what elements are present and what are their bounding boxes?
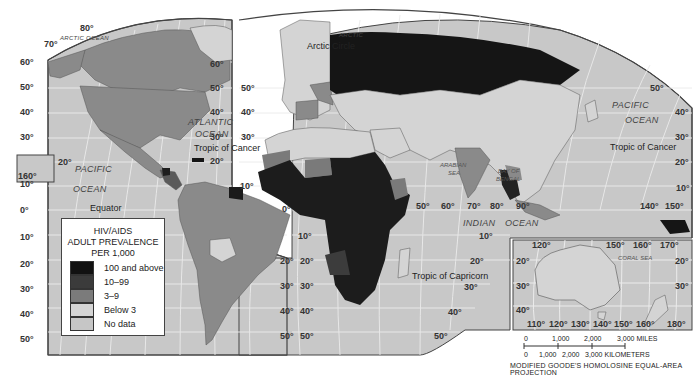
left-lat-label: 20° [20,260,34,269]
legend-label: 10–99 [104,277,129,287]
equator-label: Equator [90,204,122,213]
scale-miles-0: 0 [524,335,528,342]
pacific-left-label-2: OCEAN [73,185,107,194]
spain [296,100,318,120]
sa-lat-label: 30° [280,282,294,291]
madagascar [398,248,410,278]
pacific-left-label-1: PACIFIC [75,165,112,174]
euro-lat-label: 40° [241,108,255,117]
aus-lat-label: 30° [516,282,530,291]
legend-swatch [70,261,94,275]
aus-lat-label: 20° [675,257,689,266]
arctic-ocean-left-label: ARCTIC OCEAN [60,35,109,41]
aus-bottom-label: 180° [667,320,686,329]
hawaii-20-label: 20° [58,158,72,167]
indian-lat-label: 40° [448,308,462,317]
atl-lat-label: 10° [240,182,254,191]
scale-km-2000: 2,000 [562,351,580,358]
aus-top-label: 120° [532,241,551,250]
legend-title-line: ADULT PREVALENCE [62,237,164,248]
legend-title: HIV/AIDS ADULT PREVALENCE PER 1,000 [62,226,164,259]
indian-lon-label: 70° [467,202,481,211]
aus-top-label: 150° [606,241,625,250]
caribbean-haiti [192,158,204,162]
legend-item: Below 3 [70,303,136,317]
legend-swatch [70,275,94,289]
left-lat-label: 40° [20,108,34,117]
legend-item: No data [70,317,136,331]
scale-miles-1000: 1,000 [552,335,570,342]
indian-lon-label: 60° [441,202,455,211]
legend-swatch [70,303,94,317]
legend-title-line: HIV/AIDS [62,226,164,237]
indian-ocean-label-2: OCEAN [505,219,539,228]
left-lat-label: 50° [20,335,34,344]
atl-lat-label: 20° [210,157,224,166]
aus-lat-label: 20° [516,257,530,266]
legend-item: 10–99 [70,275,129,289]
asia-lat-label: 40° [675,108,689,117]
legend-label: No data [104,319,136,329]
hawaii-160-label: 160° [18,172,37,181]
euro-lat-label: 50° [241,84,255,93]
aus-top-label: 160° [633,241,652,250]
scale-km-0: 0 [524,351,528,358]
asia-lat-label: 10° [676,184,690,193]
atl-lat-label: 40° [210,108,224,117]
aus-lat-label: 30° [675,282,689,291]
sa-lat-label: 40° [280,307,294,316]
scale-miles-3000: 3,000 MILES [617,335,657,342]
legend-item: 100 and above [70,261,164,275]
scale-km-3000: 3,000 KILOMETERS [585,351,650,358]
legend-swatch [70,289,94,303]
tropic-cancer-left-label: Tropic of Cancer [194,144,260,153]
left-lat-label: 10° [20,233,34,242]
left-lat-label: 40° [20,310,34,319]
scale-km-1000: 1,000 [539,351,557,358]
left-lat-label: 10° [20,180,34,189]
pacific-right-label-2: OCEAN [625,116,659,125]
left-lat-label: 30° [20,285,34,294]
coral-sea-label: CORAL SEA [618,255,652,261]
bengal-label-1: BAY OF [498,168,519,174]
pacific-right-label-1: PACIFIC [612,101,649,110]
legend-label: Below 3 [104,305,136,315]
asia-lat-label: 20° [675,158,689,167]
projection-caption: MODIFIED GOODE'S HOMOLOSINE EQUAL-AREA P… [510,362,696,376]
asia-lat-label: 30° [675,133,689,142]
aus-top-label: 170° [660,241,679,250]
aus-bottom-label: 140° [593,320,612,329]
legend-swatch [70,317,94,331]
af-lat-label: 10° [298,232,312,241]
indian-lat-label: 30° [464,283,478,292]
guatemala-dark [162,168,170,176]
asia-lon-label: 150° [665,202,684,211]
legend-label: 3–9 [104,291,119,301]
arabian-sea-label-1: ARABIAN [440,162,466,168]
indian-lat-label: 10° [479,232,493,241]
af-lat-label: 0° [282,205,291,214]
bengal-label-2: BENGAL [496,176,520,182]
legend: HIV/AIDS ADULT PREVALENCE PER 1,000 100 … [61,218,165,336]
indian-lat-label: 20° [470,257,484,266]
aus-lat-label: 40° [516,306,530,315]
atlantic-label-1: ATLANTIC [188,118,233,127]
af-lat-label: 50° [300,332,314,341]
indian-ocean-label-1: INDIAN [463,219,495,228]
aus-bottom-label: 150° [614,320,633,329]
arabian-sea-label-2: SEA [448,170,460,176]
left-lat-label: 60° [20,58,34,67]
euro-lat-label: 30° [241,133,255,142]
af-lat-label: 40° [300,307,314,316]
aus-bottom-label: 160° [636,320,655,329]
atl-lat-label: 30° [210,133,224,142]
indian-lat-label: 50° [434,332,448,341]
tropic-cancer-right-label: Tropic of Cancer [610,143,676,152]
atl-lat-label: 50° [210,84,224,93]
lat-70-label: 70° [44,40,58,49]
legend-title-line: PER 1,000 [62,248,164,259]
asia-lon-label: 140° [640,202,659,211]
left-lat-label: 0° [20,206,29,215]
lat-80-label: 80° [80,24,94,33]
af-lat-label: 20° [300,257,314,266]
